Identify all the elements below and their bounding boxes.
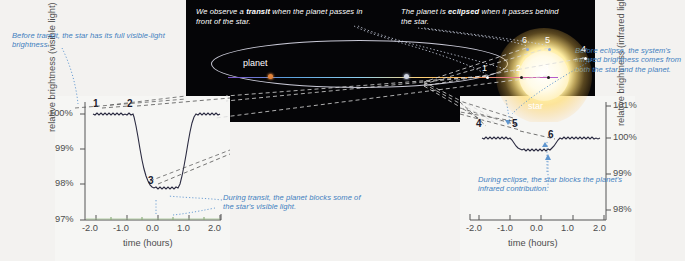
transit-xtick--2: -2.0 (82, 223, 98, 233)
eclipse-xtick-1: 1.0 (561, 223, 574, 233)
transit-ytick-99: 99% (55, 143, 74, 153)
transit-xtick-2: 2.0 (208, 223, 221, 233)
position-marker-1: 1 (482, 63, 487, 73)
eclipse-ytick-98: 98% (613, 204, 632, 214)
eclipse-xtick-2: 2.0 (593, 223, 606, 233)
position-marker-3: 3 (544, 63, 549, 73)
transit-marker-3: 3 (148, 175, 154, 186)
position-dot-1 (486, 76, 489, 79)
figure-root: We observe a transit when the planet pas… (0, 0, 685, 261)
note-during-eclipse: During eclipse, the star blocks the plan… (478, 175, 626, 194)
position-marker-6: 6 (522, 35, 527, 45)
position-marker-4: 4 (581, 44, 586, 54)
transit-xtick-1: 1.0 (177, 223, 190, 233)
note-during-transit: During transit, the planet blocks some o… (223, 193, 373, 212)
note-before-transit: Before transit, the star has its full vi… (12, 31, 172, 50)
eclipse-xtick--1: -1.0 (497, 223, 513, 233)
eclipse-xaxis-label: time (hours) (508, 238, 558, 248)
eclipse-xtick--2: -2.0 (466, 223, 482, 233)
transit-xtick-0: 0.0 (146, 223, 159, 233)
position-dot-2 (520, 76, 523, 79)
position-dot-6 (526, 48, 529, 51)
space-leader-lines (186, 0, 595, 122)
transit-xtick--1: -1.0 (113, 223, 129, 233)
transit-yaxis-label: relative brightness (visible light) (47, 2, 57, 132)
eclipse-marker-6: 6 (548, 129, 554, 140)
transit-marker-2: 2 (127, 98, 133, 109)
position-marker-5: 5 (545, 35, 550, 45)
transit-marker-1: 1 (93, 98, 99, 109)
space-diagram-panel: We observe a transit when the planet pas… (186, 0, 595, 122)
position-dot-3 (547, 76, 550, 79)
position-marker-2: 2 (516, 63, 521, 73)
position-dot-5 (548, 48, 551, 51)
transit-xaxis-label: time (hours) (123, 238, 173, 248)
transit-ytick-98: 98% (55, 178, 74, 188)
eclipse-xtick-0: 0.0 (530, 223, 543, 233)
eclipse-ytick-100: 100% (613, 132, 637, 142)
transit-ytick-97: 97% (55, 214, 74, 224)
position-dot-4 (584, 57, 587, 60)
